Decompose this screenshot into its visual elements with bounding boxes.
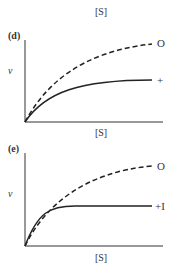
curve-o-dashed xyxy=(25,44,152,122)
figure: [S] (d) v O + [S] (e) v O +I [S] xyxy=(0,0,169,264)
y-axis-label: v xyxy=(8,65,13,76)
top-x-axis-label: [S] xyxy=(95,6,107,17)
panel-label: (d) xyxy=(8,30,20,42)
y-axis-label: v xyxy=(8,188,13,199)
x-axis-label: [S] xyxy=(95,252,107,263)
curve-label-plus: + xyxy=(157,74,163,86)
panel-e: (e) v O +I [S] xyxy=(8,143,165,263)
panel-label: (e) xyxy=(8,143,19,155)
x-axis-label: [S] xyxy=(95,127,107,138)
curve-label-o: O xyxy=(157,160,165,172)
curve-plus-solid xyxy=(25,80,152,122)
curve-label-o: O xyxy=(157,37,165,49)
curve-label-plus-i: +I xyxy=(155,200,165,212)
curve-plus-i-solid xyxy=(25,206,152,246)
panel-d: (d) v O + [S] xyxy=(8,30,165,138)
